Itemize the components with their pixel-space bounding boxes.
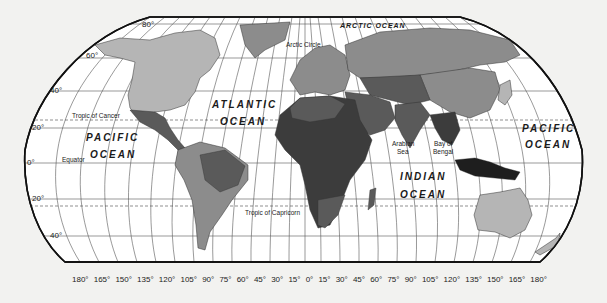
- longitude-label: 135°: [137, 275, 154, 284]
- label-equator: Equator: [62, 157, 85, 164]
- longitude-label: 180°: [530, 275, 547, 284]
- longitude-label: 60°: [237, 275, 249, 284]
- latitude-label-40s: 40°: [50, 232, 62, 240]
- label-bay-of-bengal-2: Bengal: [433, 149, 453, 156]
- longitude-label: 75°: [219, 275, 231, 284]
- label-indian-ocean-1: INDIAN: [400, 172, 446, 182]
- longitude-label: 75°: [387, 275, 399, 284]
- longitude-label: 135°: [465, 275, 482, 284]
- longitude-label: 120°: [159, 275, 176, 284]
- longitude-label: 60°: [370, 275, 382, 284]
- latitude-label-60n: 60°: [86, 52, 98, 60]
- latitude-label-0: 0°: [27, 159, 35, 167]
- longitude-label: 150°: [487, 275, 504, 284]
- label-pacific-ocean-east-1: PACIFIC: [522, 124, 575, 134]
- latitude-label-20n: 20°: [32, 124, 44, 132]
- latitude-label-20s: 20°: [32, 195, 44, 203]
- latitude-label-80n: 80°: [142, 21, 154, 29]
- longitude-label: 120°: [444, 275, 461, 284]
- longitude-label: 45°: [254, 275, 266, 284]
- longitude-label: 30°: [336, 275, 348, 284]
- label-atlantic-ocean-1: ATLANTIC: [212, 100, 277, 110]
- longitude-label: 45°: [353, 275, 365, 284]
- label-atlantic-ocean-2: OCEAN: [220, 117, 266, 127]
- longitude-label: 105°: [422, 275, 439, 284]
- longitude-axis: 180° 165° 150° 135° 120° 105° 90° 75° 60…: [72, 275, 547, 284]
- longitude-label: 15°: [318, 275, 330, 284]
- longitude-label: 180°: [72, 275, 89, 284]
- longitude-label: 90°: [405, 275, 417, 284]
- longitude-label: 165°: [94, 275, 111, 284]
- longitude-label: 165°: [509, 275, 526, 284]
- longitude-label: 15°: [288, 275, 300, 284]
- label-tropic-of-capricorn: Tropic of Capricorn: [245, 210, 300, 217]
- label-pacific-ocean-west-2: OCEAN: [90, 150, 136, 160]
- label-pacific-ocean-west-1: PACIFIC: [86, 133, 139, 143]
- longitude-label: 0°: [306, 275, 314, 284]
- label-bay-of-bengal-1: Bay of: [434, 141, 452, 148]
- longitude-label: 105°: [180, 275, 197, 284]
- label-pacific-ocean-east-2: OCEAN: [525, 140, 571, 150]
- longitude-label: 150°: [115, 275, 132, 284]
- label-arabian-sea-2: Sea: [397, 149, 409, 156]
- label-arctic-ocean: ARCTIC OCEAN: [340, 22, 406, 29]
- longitude-label: 90°: [202, 275, 214, 284]
- longitude-label: 30°: [271, 275, 283, 284]
- label-arabian-sea-1: Arabian: [392, 141, 414, 148]
- landmass-australia: [474, 188, 532, 238]
- label-tropic-of-cancer: Tropic of Cancer: [72, 113, 120, 120]
- label-indian-ocean-2: OCEAN: [400, 190, 446, 200]
- label-arctic-circle: Arctic Circle: [286, 42, 321, 49]
- latitude-label-40n: 40°: [50, 87, 62, 95]
